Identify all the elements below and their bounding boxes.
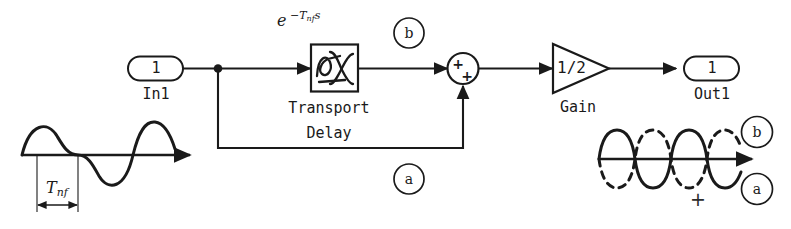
input-waveform-trace <box>22 122 175 185</box>
output-waveform-group <box>599 117 773 205</box>
tag-b-waveform-label: b <box>753 125 762 139</box>
gain-value: 1/2 <box>557 60 586 76</box>
diagram-vector-layer <box>0 0 791 229</box>
period-label-T: T <box>46 178 57 197</box>
transport-delay-label-line2: Delay <box>306 126 351 141</box>
equation-T: T <box>299 9 306 22</box>
out-port-label: Out1 <box>694 87 730 102</box>
diagram-canvas: 1 In1 e −Tnfs Transport Delay + + 1/2 Ga… <box>0 0 791 229</box>
equation-s: s <box>315 9 321 22</box>
period-label-subscript: nf <box>57 186 68 199</box>
gain-label: Gain <box>560 100 596 115</box>
equation-subscript: nf <box>307 14 315 23</box>
input-waveform-period-label: Tnf <box>46 180 68 196</box>
tag-b-diagram-label: b <box>405 26 414 40</box>
equation-minus: − <box>290 9 299 22</box>
tag-a-waveform-label: a <box>753 182 761 196</box>
transport-delay-equation: e −Tnfs <box>277 13 320 29</box>
tag-a-diagram-label: a <box>405 172 413 186</box>
transport-delay-label-line1: Transport <box>288 101 369 116</box>
sum-sign-bottom: + <box>461 69 473 83</box>
output-waveform-plus-sign: + <box>690 190 706 209</box>
out-port-number: 1 <box>707 61 716 76</box>
in-port-label: In1 <box>142 87 169 102</box>
input-waveform-group <box>22 122 190 212</box>
in-port-number: 1 <box>151 61 160 76</box>
